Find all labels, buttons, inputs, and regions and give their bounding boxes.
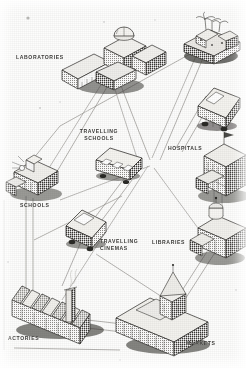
label-laboratories: LABORATORIES	[16, 54, 64, 61]
hospital-building	[196, 132, 246, 203]
library-building	[190, 197, 246, 265]
laboratories-building	[62, 27, 166, 94]
illustration-canvas: LABORATORIES TRAVELLING SCHOOLS HOSPITAL…	[0, 0, 246, 368]
label-libraries: LIBRARIES	[152, 239, 185, 246]
label-hospitals: HOSPITALS	[168, 145, 202, 152]
label-markets: MARKETS	[186, 340, 216, 347]
label-factories: ACTORIES	[8, 335, 39, 342]
label-travelling-schools: TRAVELLING SCHOOLS	[78, 128, 120, 142]
travelling-school-bus	[96, 148, 142, 184]
label-travelling-cinemas: TRAVELLING CINEMAS	[100, 238, 138, 252]
label-schools: SCHOOLS	[20, 202, 50, 209]
domed-garden-building	[184, 12, 240, 64]
hospital-van	[197, 88, 240, 131]
